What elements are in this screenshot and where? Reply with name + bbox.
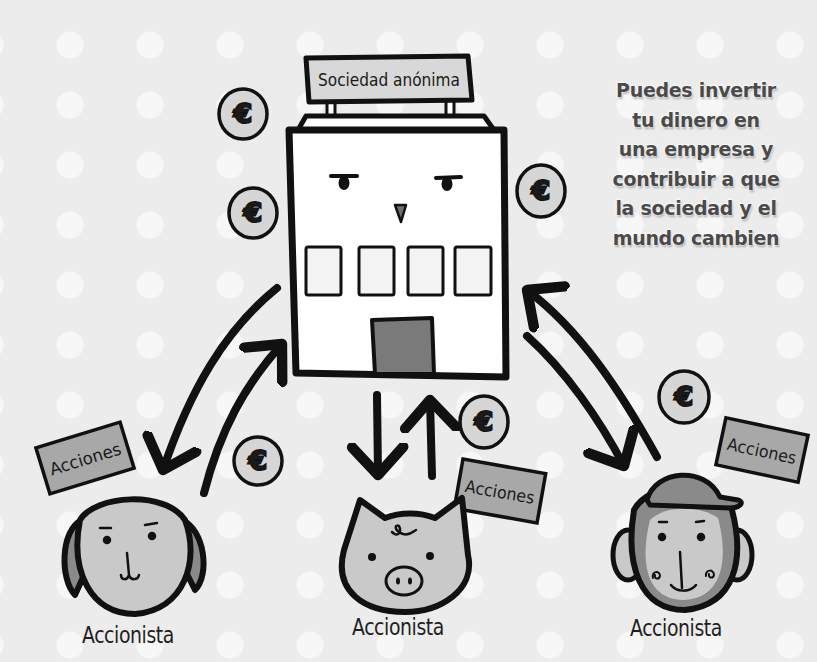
shareholder-monkey xyxy=(613,475,752,610)
euro-coin-icon: € xyxy=(219,89,267,139)
caption-text: Puedes invertir tu dinero en una empresa… xyxy=(585,76,807,253)
caption-line: una empresa y xyxy=(585,135,807,165)
euro-coin-icon: € xyxy=(517,165,565,217)
euro-coin-icon: € xyxy=(659,371,709,423)
shareholder-dog xyxy=(65,499,204,614)
shareholder-label-monkey: Accionista xyxy=(630,615,722,641)
arrow-shares-to-pig xyxy=(377,395,378,475)
shares-card-monkey: Acciones xyxy=(716,418,808,482)
company-building xyxy=(289,100,506,377)
svg-text:€: € xyxy=(474,406,494,437)
monkey-cap xyxy=(647,475,741,508)
company-sign: Sociedad anónima xyxy=(306,56,472,102)
shareholder-label-dog: Accionista xyxy=(82,622,174,648)
caption-line: contribuir a que xyxy=(585,165,807,195)
svg-text:€: € xyxy=(243,197,263,228)
arrow-money-from-pig xyxy=(430,400,432,476)
caption-line: tu dinero en xyxy=(585,106,807,136)
euro-coin-icon: € xyxy=(229,188,277,238)
caption-line: la sociedad y el xyxy=(585,194,807,224)
company-sign-label: Sociedad anónima xyxy=(318,70,460,90)
shares-card-pig: Acciones xyxy=(454,459,545,523)
svg-text:€: € xyxy=(674,381,694,412)
shareholder-pig xyxy=(342,498,469,612)
shares-card-dog: Acciones xyxy=(36,422,134,494)
svg-text:€: € xyxy=(531,175,551,206)
building-door xyxy=(372,318,434,374)
svg-text:€: € xyxy=(248,445,268,476)
euro-coin-icon: € xyxy=(460,396,508,448)
euro-coin-icon: € xyxy=(234,437,282,485)
arrow-money-from-monkey xyxy=(527,290,657,457)
arrow-shares-to-monkey xyxy=(527,336,624,466)
svg-text:€: € xyxy=(233,98,253,129)
caption-line: mundo cambien xyxy=(585,224,807,254)
shareholder-label-pig: Accionista xyxy=(352,614,444,640)
caption-line: Puedes invertir xyxy=(585,76,807,106)
